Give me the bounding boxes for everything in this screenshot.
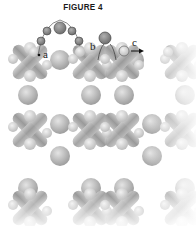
label-c: c bbox=[132, 36, 137, 48]
lattice-cells bbox=[8, 42, 196, 226]
crystal-lattice-diagram: a b c bbox=[0, 0, 196, 226]
label-b: b bbox=[90, 40, 96, 52]
label-a: a bbox=[43, 48, 48, 60]
